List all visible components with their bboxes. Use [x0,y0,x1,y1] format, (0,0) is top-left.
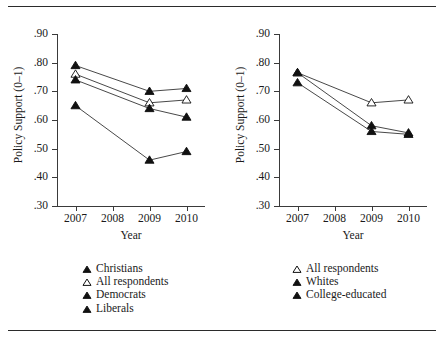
y-axis-tick: .80 [274,63,279,64]
x-axis-tick [187,206,188,211]
y-axis-tick-label: .50 [256,142,270,154]
x-axis-tick-label: 2008 [93,212,133,224]
y-axis-tick-label: .80 [256,56,270,68]
legend-right: All respondentsWhitesCollege-educated [292,262,386,302]
x-axis-label: Year [279,229,427,241]
clipped-caption [10,0,434,4]
y-axis-tick-label: .30 [256,199,270,211]
x-axis-tick-label: 2009 [352,212,392,224]
y-axis-tick-label: .50 [34,142,48,154]
y-axis-tick: .50 [274,149,279,150]
filled-triangle-icon [82,290,93,301]
chart-panel-right: Policy Support (0–1) .90.80.70.60.50.40.… [222,14,444,264]
legend-item: Liberals [82,302,169,315]
data-point-marker [404,96,413,103]
y-axis-tick: .70 [274,91,279,92]
open-triangle-icon [82,277,93,288]
y-axis-tick: .90 [274,34,279,35]
series-line [298,73,409,133]
legend-item-label: Whites [306,275,339,288]
x-axis-line [279,206,427,207]
y-axis-tick-label: .30 [34,199,48,211]
y-axis-tick: .50 [52,149,57,150]
legend-item: All respondents [292,262,386,275]
plot-area-right: .90.80.70.60.50.40.302007200820092010 [279,34,427,206]
x-axis-tick [409,206,410,211]
x-axis-tick-label: 2010 [389,212,429,224]
filled-triangle-icon [82,304,93,315]
x-axis-line [57,206,205,207]
legend-item: College-educated [292,288,386,301]
plot-area-left: .90.80.70.60.50.40.302007200820092010 [57,34,205,206]
data-point-marker [71,101,80,108]
x-axis-label: Year [57,229,205,241]
y-axis-tick: .30 [274,206,279,207]
x-axis-tick [335,206,336,211]
x-axis-tick-label: 2007 [278,212,318,224]
legend-left: ChristiansAll respondentsDemocratsLibera… [82,262,169,315]
legend-item: Christians [82,262,169,275]
x-axis-tick [76,206,77,211]
legend-item-label: Democrats [96,288,146,301]
legend-item: Whites [292,275,386,288]
chart-panel-left: Policy Support (0–1) .90.80.70.60.50.40.… [0,14,222,264]
data-point-marker [182,84,191,91]
y-axis-tick-label: .60 [256,113,270,125]
series-line [76,66,187,92]
data-point-marker [182,96,191,103]
open-triangle-icon [292,264,303,275]
x-axis-tick-label: 2010 [167,212,207,224]
data-point-marker [182,147,191,154]
filled-triangle-icon [292,290,303,301]
x-axis-tick [113,206,114,211]
y-axis-label: Policy Support (0–1) [12,50,24,180]
x-axis-tick-label: 2009 [130,212,170,224]
legend-item-label: All respondents [306,262,379,275]
y-axis-tick: .80 [52,63,57,64]
series-line [298,73,409,103]
y-axis-tick: .70 [52,91,57,92]
x-axis-tick [150,206,151,211]
series-line [76,74,187,103]
y-axis-tick: .90 [52,34,57,35]
x-axis-tick-label: 2008 [315,212,355,224]
y-axis-label: Policy Support (0–1) [234,50,246,180]
figure: Policy Support (0–1) .90.80.70.60.50.40.… [0,0,444,337]
legend-item-label: All respondents [96,275,169,288]
data-point-marker [293,78,302,85]
y-axis-tick-label: .70 [256,84,270,96]
y-axis-tick: .30 [52,206,57,207]
data-point-marker [71,61,80,68]
series-plot-right [279,34,427,206]
legend-item-label: Liberals [96,302,134,315]
legend-item-label: College-educated [306,288,386,301]
y-axis-tick-label: .80 [34,56,48,68]
bottom-rule [8,330,436,331]
series-line [76,106,187,160]
y-axis-tick: .40 [52,177,57,178]
y-axis-tick: .60 [52,120,57,121]
series-line [298,83,409,135]
y-axis-tick-label: .40 [34,170,48,182]
x-axis-tick-label: 2007 [56,212,96,224]
series-plot-left [57,34,205,206]
x-axis-tick [372,206,373,211]
series-line [76,80,187,117]
x-axis-tick [298,206,299,211]
y-axis-tick-label: .90 [256,27,270,39]
y-axis-tick: .60 [274,120,279,121]
legend-item: Democrats [82,288,169,301]
y-axis-tick-label: .60 [34,113,48,125]
filled-triangle-icon [292,277,303,288]
data-point-marker [293,68,302,75]
legend-item-label: Christians [96,262,143,275]
legend-item: All respondents [82,275,169,288]
y-axis-tick-label: .70 [34,84,48,96]
y-axis-tick-label: .40 [256,170,270,182]
filled-triangle-icon [82,264,93,275]
y-axis-tick-label: .90 [34,27,48,39]
top-rule [8,6,436,7]
y-axis-tick: .40 [274,177,279,178]
